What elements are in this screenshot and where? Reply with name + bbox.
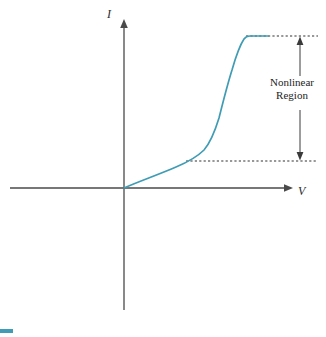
nonlinear-region-annotation: Nonlinear Region bbox=[258, 76, 326, 103]
iv-characteristic-figure: I V Nonlinear Region bbox=[0, 0, 326, 337]
iv-curve bbox=[124, 36, 268, 188]
measure-arrow-down bbox=[297, 152, 304, 161]
annotation-line-2: Region bbox=[258, 89, 326, 102]
annotation-line-1: Nonlinear bbox=[258, 76, 326, 89]
x-axis bbox=[10, 184, 293, 192]
x-axis-label: V bbox=[298, 185, 305, 197]
measure-arrow-up bbox=[297, 37, 304, 46]
y-axis-label: I bbox=[107, 8, 111, 20]
corner-color-swatch bbox=[0, 329, 13, 333]
plot-canvas bbox=[0, 0, 326, 337]
y-axis bbox=[120, 19, 128, 310]
